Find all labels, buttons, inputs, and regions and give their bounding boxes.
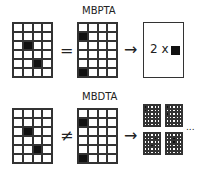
grid-cell [42,154,52,163]
grid-cell [179,123,182,127]
grid-cell [98,136,108,145]
equals-sign: = [60,43,73,59]
grid-cell [88,154,98,163]
source-grid [12,108,53,164]
grid-cell [78,59,88,68]
grid-cell [107,68,117,77]
grid-cell [42,50,52,59]
grid-cell [88,50,98,59]
arrow-icon: → [124,42,137,58]
grid-cell [107,154,117,163]
grid-cell [42,136,52,145]
result-grid-3 [143,132,161,155]
grid-cell [13,145,23,154]
grid-cell [42,59,52,68]
grid-cell [78,23,88,32]
grid-cell [88,23,98,32]
grid-cell [13,118,23,127]
grid-cell [98,32,108,41]
grid-cell [23,136,33,145]
result-grid-4 [165,132,183,155]
grid-cell [42,68,52,77]
grid-cell [78,118,88,127]
grid-cell [78,50,88,59]
grid-cell [88,127,98,136]
grid-cell [107,50,117,59]
grid-cell [78,154,88,163]
grid-cell [98,145,108,154]
grid-cell [13,32,23,41]
grid-cell [107,118,117,127]
grid-cell [78,109,88,118]
grid-cell [33,32,43,41]
grid-cell [23,145,33,154]
grid-cell [98,68,108,77]
not-equal-sign: ≠ [60,128,73,144]
grid-cell [23,23,33,32]
grid-cell [23,59,33,68]
grid-cell [33,136,43,145]
grid-cell [157,151,160,155]
grid-cell [42,32,52,41]
grid-cell [88,109,98,118]
grid-cell [42,145,52,154]
grid-cell [88,41,98,50]
label-mbdta: MBDTA [82,91,117,102]
grid-cell [98,127,108,136]
grid-cell [107,32,117,41]
grid-cell [23,32,33,41]
grid-cell [98,41,108,50]
grid-cell [33,59,43,68]
grid-cell [13,59,23,68]
grid-cell [88,136,98,145]
filled-square-icon [171,46,180,55]
grid-cell [98,59,108,68]
ellipsis: ... [186,122,195,132]
grid-cell [88,118,98,127]
result-box: 2 x [143,22,184,78]
grid-cell [42,109,52,118]
grid-cell [88,32,98,41]
grid-cell [33,145,43,154]
arrow-icon: → [124,128,137,144]
grid-cell [107,145,117,154]
result-text: 2 x [150,42,169,56]
grid-cell [78,145,88,154]
target-grid [77,22,118,78]
grid-cell [13,154,23,163]
grid-cell [23,154,33,163]
grid-cell [88,59,98,68]
grid-cell [107,59,117,68]
grid-cell [42,41,52,50]
grid-cell [33,50,43,59]
grid-cell [107,127,117,136]
grid-cell [23,41,33,50]
grid-cell [107,23,117,32]
grid-cell [23,68,33,77]
grid-cell [13,136,23,145]
grid-cell [107,109,117,118]
grid-cell [33,41,43,50]
grid-cell [13,23,23,32]
grid-cell [42,118,52,127]
grid-cell [13,41,23,50]
source-grid [12,22,53,78]
grid-cell [33,118,43,127]
label-mbpta: MBPTA [82,5,116,16]
grid-cell [98,50,108,59]
grid-cell [179,151,182,155]
grid-cell [78,68,88,77]
grid-cell [13,50,23,59]
target-grid [77,108,118,164]
grid-cell [23,127,33,136]
grid-cell [13,109,23,118]
grid-cell [78,41,88,50]
grid-cell [23,50,33,59]
grid-cell [42,127,52,136]
grid-cell [33,154,43,163]
grid-cell [107,136,117,145]
grid-cell [42,23,52,32]
grid-cell [98,109,108,118]
grid-cell [98,118,108,127]
result-grid-1 [143,104,161,127]
